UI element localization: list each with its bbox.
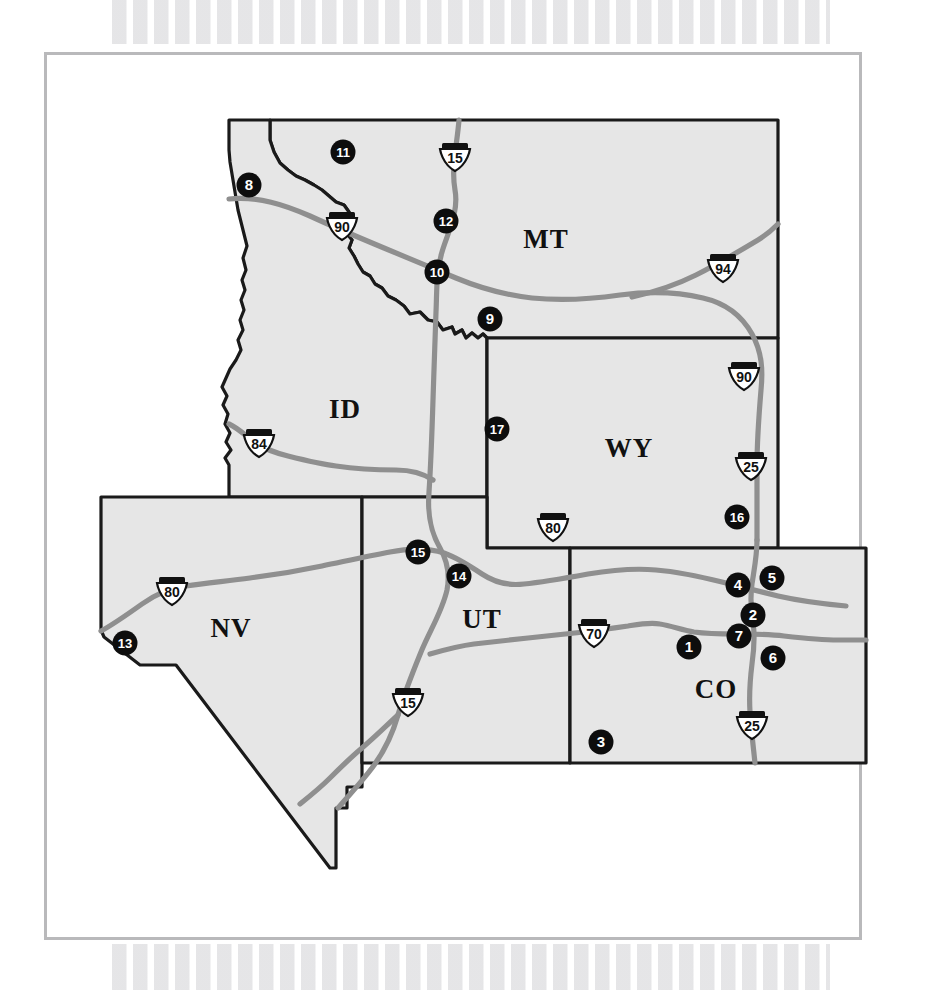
- state-shape-NV[interactable]: [101, 497, 362, 868]
- page-canvas: MT ID WY NV UT CO 1590949025848080701525…: [0, 0, 934, 990]
- site-marker-4[interactable]: 4: [726, 573, 751, 598]
- site-marker-5[interactable]: 5: [760, 566, 785, 591]
- site-marker-12[interactable]: 12: [434, 209, 459, 234]
- site-marker-6[interactable]: 6: [761, 646, 786, 671]
- marker-number: 5: [768, 569, 776, 586]
- marker-number: 1: [685, 638, 693, 655]
- site-marker-16[interactable]: 16: [725, 505, 750, 530]
- state-label-NV: NV: [211, 613, 252, 643]
- site-marker-15[interactable]: 15: [406, 540, 431, 565]
- shield-number: 70: [586, 626, 602, 642]
- shield-number: 15: [447, 150, 463, 166]
- marker-number: 10: [430, 265, 444, 280]
- marker-number: 13: [118, 636, 132, 651]
- state-shapes: [101, 120, 866, 868]
- site-marker-3[interactable]: 3: [589, 730, 614, 755]
- shield-number: 80: [164, 584, 180, 600]
- marker-number: 6: [769, 649, 777, 666]
- shield-number: 94: [715, 261, 731, 277]
- shield-number: 80: [545, 520, 561, 536]
- state-label-ID: ID: [329, 394, 361, 424]
- marker-number: 9: [486, 310, 494, 327]
- site-marker-7[interactable]: 7: [727, 624, 752, 649]
- site-marker-8[interactable]: 8: [237, 173, 262, 198]
- shield-number: 15: [400, 695, 416, 711]
- marker-number: 2: [749, 606, 757, 623]
- marker-number: 15: [411, 545, 425, 560]
- marker-number: 3: [597, 733, 605, 750]
- site-marker-9[interactable]: 9: [478, 307, 503, 332]
- marker-number: 16: [730, 510, 744, 525]
- shield-number: 90: [736, 369, 752, 385]
- site-marker-13[interactable]: 13: [113, 631, 138, 656]
- state-label-UT: UT: [462, 604, 502, 634]
- shield-number: 25: [743, 459, 759, 475]
- shield-number: 90: [334, 219, 350, 235]
- site-marker-14[interactable]: 14: [447, 564, 472, 589]
- marker-number: 7: [735, 627, 743, 644]
- site-marker-11[interactable]: 11: [331, 140, 356, 165]
- site-marker-1[interactable]: 1: [677, 635, 702, 660]
- marker-number: 12: [439, 214, 453, 229]
- site-marker-17[interactable]: 17: [485, 417, 510, 442]
- state-label-WY: WY: [605, 433, 654, 463]
- site-marker-10[interactable]: 10: [425, 260, 450, 285]
- marker-number: 4: [734, 576, 743, 593]
- marker-number: 11: [336, 145, 350, 160]
- state-label-MT: MT: [523, 224, 569, 254]
- state-label-CO: CO: [695, 674, 738, 704]
- shield-number: 84: [251, 436, 267, 452]
- marker-number: 8: [245, 176, 253, 193]
- marker-number: 14: [452, 569, 467, 584]
- shield-number: 25: [744, 718, 760, 734]
- marker-number: 17: [490, 422, 504, 437]
- site-marker-2[interactable]: 2: [741, 603, 766, 628]
- map-figure: MT ID WY NV UT CO 1590949025848080701525…: [0, 0, 934, 990]
